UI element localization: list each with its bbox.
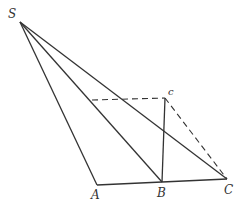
segment-SC: [20, 22, 227, 179]
label-S: S: [8, 7, 16, 21]
segment-SB: [20, 22, 162, 182]
label-C: C: [224, 183, 233, 197]
geometry-diagram: S A B C c: [0, 0, 246, 215]
segment-SA: [20, 22, 97, 185]
label-B: B: [156, 186, 166, 200]
segment-Bc: [162, 98, 165, 182]
label-c: c: [168, 86, 174, 97]
dashed-segment-Dc: [92, 98, 165, 100]
label-A: A: [90, 188, 100, 202]
